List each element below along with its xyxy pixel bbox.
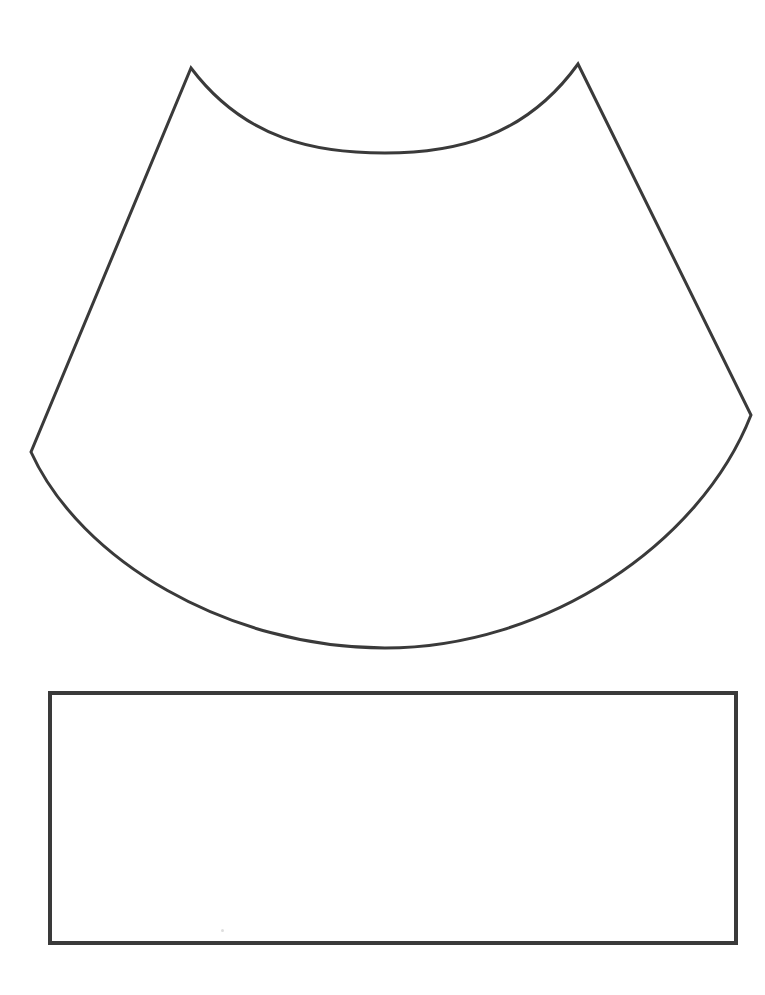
pattern-sheet	[0, 0, 765, 995]
sheet-background	[0, 0, 765, 995]
scan-speck-artifact	[221, 929, 224, 932]
pattern-drawing-canvas	[0, 0, 765, 995]
